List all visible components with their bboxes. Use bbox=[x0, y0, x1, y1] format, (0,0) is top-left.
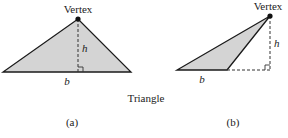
triangle-b bbox=[177, 16, 270, 70]
vertex-label-b: Vertex bbox=[254, 0, 283, 12]
panel-label-b: (b) bbox=[227, 116, 240, 129]
panel-b: Vertex h b (b) bbox=[177, 0, 283, 129]
triangle-diagram: Vertex h b (a) Vertex h b (b) Triangle bbox=[0, 0, 288, 138]
vertex-dot-a bbox=[75, 16, 80, 21]
height-label-a: h bbox=[82, 42, 88, 54]
panel-a: Vertex h b (a) bbox=[3, 3, 131, 129]
vertex-label-a: Vertex bbox=[64, 3, 93, 15]
vertex-dot-b bbox=[267, 13, 272, 18]
base-label-b: b bbox=[199, 73, 205, 85]
base-label-a: b bbox=[64, 75, 70, 87]
right-angle-marker-b bbox=[265, 65, 270, 70]
panel-label-a: (a) bbox=[66, 116, 79, 129]
figure-caption: Triangle bbox=[128, 92, 165, 104]
height-label-b: h bbox=[274, 37, 280, 49]
triangle-a bbox=[3, 19, 131, 72]
